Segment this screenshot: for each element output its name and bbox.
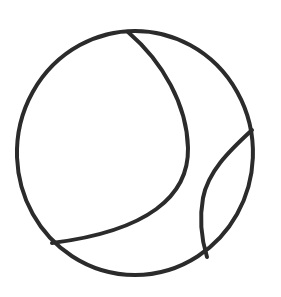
tennis-ball-illustration xyxy=(0,0,281,297)
drawing-canvas xyxy=(0,0,281,297)
